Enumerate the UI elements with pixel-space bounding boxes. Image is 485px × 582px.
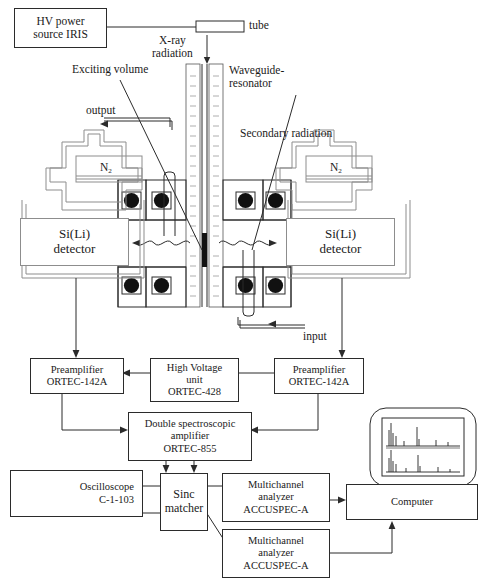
multichannel-analyzer-2-box[interactable]: Multichannel analyzer ACCUSPEC-A [222, 529, 330, 578]
mca1-line3: ACCUSPEC-A [243, 504, 308, 516]
mca2-line1: Multichannel [248, 535, 304, 547]
xray-radiation-line1: X-ray [152, 34, 193, 47]
waveguide-resonator-label: Waveguide- resonator [229, 64, 284, 90]
tube-label: tube [249, 19, 269, 32]
preamp-left-line1: Preamplifier [51, 364, 103, 376]
xray-radiation-line2: radiation [152, 47, 193, 60]
secondary-radiation-label: Secondary radiation [240, 127, 332, 140]
dsa-line1: Double spectroscopic [145, 418, 236, 430]
dsa-line2: amplifier [171, 430, 209, 442]
oscilloscope-line1: Oscilloscope [80, 481, 134, 493]
right-sili-detector-box[interactable]: Si(Li) detector [286, 218, 395, 266]
left-sili-detector-box[interactable]: Si(Li) detector [20, 218, 129, 266]
input-label: input [303, 330, 327, 343]
left-detector-line1: Si(Li) [59, 227, 90, 242]
left-nitrogen-subscript: 2 [108, 167, 112, 175]
sinc-matcher-line2: matcher [165, 502, 204, 516]
computer-label: Computer [391, 496, 433, 508]
high-voltage-unit-box[interactable]: High Voltage unit ORTEC-428 [150, 358, 239, 402]
dsa-line3: ORTEC-855 [163, 443, 216, 455]
oscilloscope-line2: C-1-103 [99, 494, 134, 506]
right-detector-line2: detector [320, 242, 362, 257]
input-arrow [238, 317, 305, 328]
hv-power-source-line1: HV power [36, 15, 84, 28]
hv-unit-line3: ORTEC-428 [168, 386, 221, 398]
mca1-line2: analyzer [258, 491, 294, 503]
xray-tube [196, 21, 244, 32]
sinc-matcher-line1: Sinc [173, 488, 194, 502]
preamplifier-right-box[interactable]: Preamplifier ORTEC-142A [274, 358, 364, 394]
xray-radiation-label: X-ray radiation [152, 34, 193, 60]
diagram-canvas: HV power source IRIS tube X-ray radiatio… [0, 0, 485, 582]
mca2-to-computer [328, 521, 395, 553]
right-preamp-to-dsa [250, 392, 318, 433]
output-label: output [86, 104, 115, 117]
double-spectroscopic-amplifier-box[interactable]: Double spectroscopic amplifier ORTEC-855 [128, 412, 252, 461]
left-detector-line2: detector [54, 242, 96, 257]
waveguide-line2: resonator [229, 77, 284, 90]
hv-power-source-line2: source IRIS [33, 28, 88, 41]
waveguide-line1: Waveguide- [229, 64, 284, 77]
waveguide-resonator [186, 64, 223, 307]
oscilloscope-box[interactable]: Oscilloscope C-1-103 [10, 470, 143, 517]
hv-unit-to-left-preamp [122, 370, 150, 377]
mca1-line1: Multichannel [248, 479, 304, 491]
preamp-left-line2: ORTEC-142A [47, 376, 108, 388]
preamp-right-line2: ORTEC-142A [289, 376, 350, 388]
mca2-line2: analyzer [258, 547, 294, 559]
preamplifier-left-box[interactable]: Preamplifier ORTEC-142A [30, 358, 124, 394]
right-nitrogen-subscript: 2 [338, 167, 342, 175]
exciting-volume-label: Exciting volume [72, 63, 148, 76]
mca2-line3: ACCUSPEC-A [243, 560, 308, 572]
hv-unit-line1: High Voltage [167, 362, 222, 374]
multichannel-analyzer-1-box[interactable]: Multichannel analyzer ACCUSPEC-A [222, 473, 330, 522]
left-detector-to-preamp-line [73, 278, 80, 358]
dsa-to-sinc-lines [163, 459, 198, 473]
hv-unit-line2: unit [186, 374, 202, 386]
sinc-matcher-box[interactable]: Sinc matcher [160, 473, 208, 531]
right-detector-to-preamp-line [339, 278, 346, 358]
mca1-to-computer [328, 497, 346, 504]
right-nitrogen-label: N2 [330, 161, 342, 176]
preamp-right-line1: Preamplifier [293, 364, 345, 376]
left-preamp-to-dsa [62, 392, 128, 433]
left-nitrogen-label: N2 [100, 161, 112, 176]
xray-radiation-arrow [204, 35, 210, 64]
exciting-volume-leader [120, 80, 202, 250]
hv-power-source-box[interactable]: HV power source IRIS [14, 8, 107, 48]
right-detector-line1: Si(Li) [325, 227, 356, 242]
output-arrow [100, 118, 172, 130]
computer-box[interactable]: Computer [346, 484, 478, 520]
oscilloscope-to-sinc-links [143, 486, 160, 513]
